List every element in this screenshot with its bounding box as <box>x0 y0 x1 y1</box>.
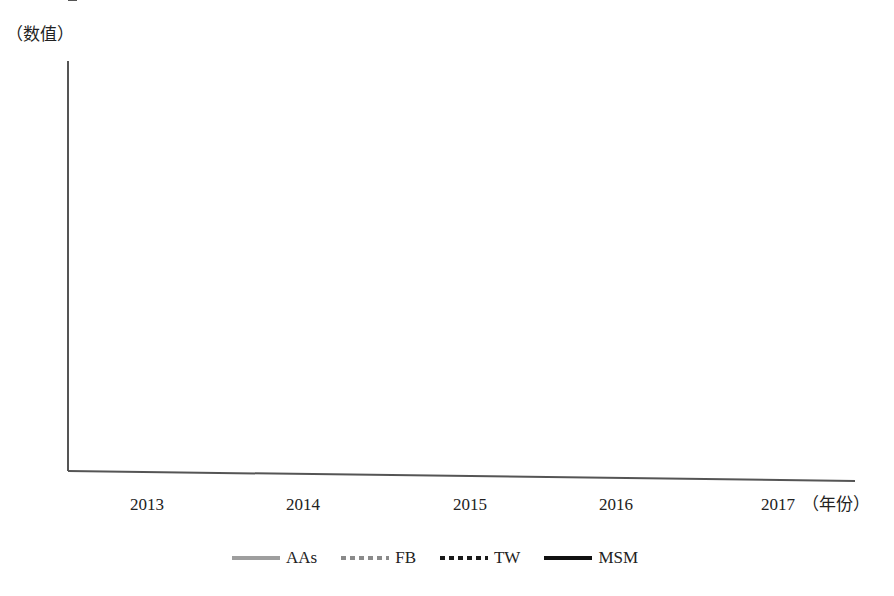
y-axis-title: （数值） <box>6 25 74 44</box>
legend-item-aas: AAs <box>230 548 317 568</box>
legend-swatch-icon <box>230 552 282 564</box>
line-chart: 02468101214161820 20132014201520162017（年… <box>0 0 894 596</box>
x-tick-label: 2013 <box>130 495 164 514</box>
x-tick-label: 2016 <box>599 495 633 514</box>
legend-swatch-icon <box>438 552 490 564</box>
x-axis-title: （年份） <box>802 495 870 514</box>
legend-swatch-icon <box>339 552 391 564</box>
legend-label: AAs <box>286 548 317 568</box>
legend-label: TW <box>494 548 520 568</box>
legend-item-tw: TW <box>438 548 520 568</box>
x-tick-label: 2017 <box>761 495 796 514</box>
legend: AAsFBTWMSM <box>230 548 660 568</box>
legend-item-fb: FB <box>339 548 416 568</box>
legend-label: FB <box>395 548 416 568</box>
legend-item-msm: MSM <box>542 548 638 568</box>
x-axis-line <box>68 471 855 481</box>
y-tick-label: 20 <box>35 0 52 4</box>
x-tick-label: 2015 <box>453 495 487 514</box>
y-axis: 02468101214161820 <box>35 0 77 471</box>
legend-label: MSM <box>598 548 638 568</box>
x-axis: 20132014201520162017（年份） <box>68 471 870 514</box>
legend-swatch-icon <box>542 552 594 564</box>
x-tick-label: 2014 <box>286 495 321 514</box>
